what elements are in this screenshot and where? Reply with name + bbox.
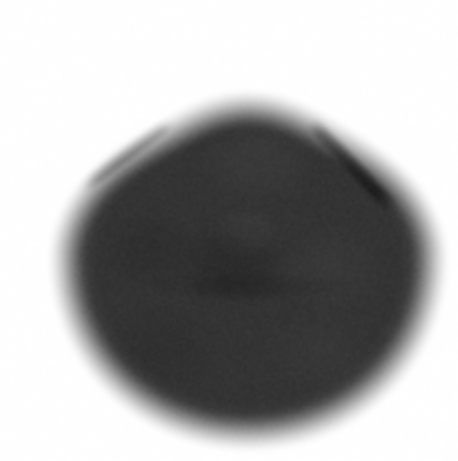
scan-image-viewport: Grayscale nuclear medicine scan showing … bbox=[0, 0, 458, 461]
scan-image-canvas bbox=[0, 0, 458, 461]
